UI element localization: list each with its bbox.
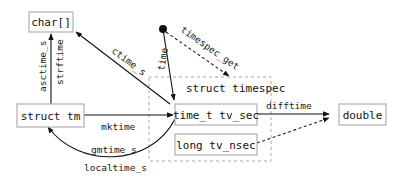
label-difftime: difftime bbox=[266, 100, 312, 111]
node-double-label: double bbox=[343, 109, 383, 122]
label-gmtime-s: gmtime_s bbox=[91, 144, 137, 155]
node-char-array: char[] bbox=[29, 12, 73, 32]
node-struct-tm: struct tm bbox=[17, 104, 84, 127]
node-long-nsec-label: long tv_nsec bbox=[176, 139, 255, 152]
node-char-array-label: char[] bbox=[31, 16, 71, 29]
node-struct-tm-label: struct tm bbox=[21, 110, 81, 123]
struct-timespec-label: struct timespec bbox=[186, 82, 285, 95]
node-double: double bbox=[339, 104, 386, 125]
label-asctime-s: asctime_s bbox=[37, 41, 48, 92]
edge-nsec-to-double bbox=[257, 118, 329, 143]
node-time-t-tv-sec: time_t tv_sec bbox=[173, 104, 259, 125]
label-time: time bbox=[155, 47, 170, 72]
label-mktime: mktime bbox=[101, 121, 136, 132]
label-localtime-s: localtime_s bbox=[84, 162, 147, 173]
time-conversion-diagram: struct timespec asctime_s strftime ctime… bbox=[0, 0, 398, 185]
label-strftime: strftime bbox=[54, 39, 65, 85]
node-time-t-label: time_t tv_sec bbox=[173, 109, 259, 122]
node-long-tv-nsec: long tv_nsec bbox=[175, 134, 257, 155]
label-timespec-get: timespec_get bbox=[179, 24, 242, 72]
